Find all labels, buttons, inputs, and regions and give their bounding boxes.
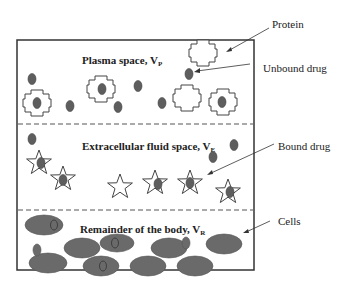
drug-dot-icon bbox=[98, 84, 106, 95]
protein-icon bbox=[189, 40, 217, 66]
unbound-drug-callout-label: Unbound drug bbox=[263, 62, 327, 74]
bound-drug-icon bbox=[186, 178, 194, 189]
bound-drug-icon bbox=[226, 187, 234, 198]
cell-icon bbox=[64, 238, 100, 258]
unbound-drug-icon bbox=[114, 102, 122, 113]
cell-icon bbox=[29, 253, 67, 273]
cell-icon bbox=[151, 238, 187, 258]
protein-icon bbox=[173, 85, 201, 111]
unbound-drug-icon bbox=[185, 69, 193, 80]
unbound-drug-icon bbox=[134, 81, 142, 92]
unbound-drug-icon bbox=[158, 98, 166, 109]
protein-callout-label: Protein bbox=[272, 18, 304, 30]
pharmacokinetics-diagram: Plasma space, VP Extracellular fluid spa… bbox=[0, 0, 348, 292]
cells-callout-label: Cells bbox=[278, 215, 301, 227]
extracellular-label: Extracellular fluid space, VE bbox=[82, 140, 216, 154]
drug-dot-icon bbox=[33, 98, 41, 109]
unbound-drug-icon bbox=[230, 140, 238, 151]
bound-drug-icon bbox=[37, 158, 45, 169]
unbound-drug-icon bbox=[182, 237, 190, 249]
drug-dot-icon bbox=[218, 97, 226, 108]
cell-icon bbox=[100, 234, 134, 252]
bound-drug-icon bbox=[59, 175, 67, 186]
unbound-drug-icon bbox=[209, 152, 217, 163]
unbound-drug-icon bbox=[33, 244, 41, 256]
unbound-drug-icon bbox=[28, 134, 36, 145]
cell-icon bbox=[177, 256, 213, 276]
unbound-drug-icon bbox=[28, 74, 36, 85]
remainder-label: Remainder of the body, VR bbox=[80, 223, 206, 237]
plasma-label: Plasma space, VP bbox=[82, 54, 163, 68]
cell-icon bbox=[83, 256, 119, 276]
unbound-drug-icon bbox=[66, 101, 74, 112]
cell-icon bbox=[130, 256, 166, 276]
bound-drug-icon bbox=[154, 179, 162, 190]
cell-icon bbox=[206, 234, 242, 254]
bound-drug-callout-label: Bound drug bbox=[278, 140, 331, 152]
